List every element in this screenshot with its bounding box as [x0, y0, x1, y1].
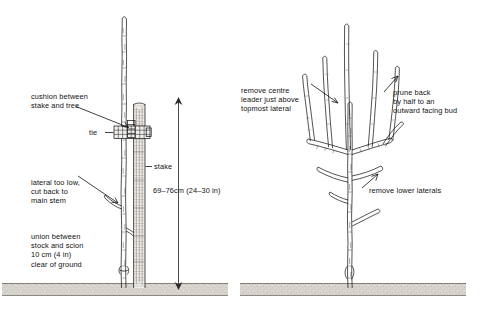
ground-band-left [2, 283, 228, 296]
lower-lateral-to-remove [352, 209, 380, 226]
panel-staking: cushion between stake and tree tie stake… [0, 0, 232, 313]
scaffold-branch-left-mid [317, 167, 348, 182]
scaffold-branch-left-low [329, 192, 348, 204]
label-cushion-between-stake-and-tree: cushion between stake and tree [31, 92, 135, 110]
label-prune-back-by-half: prune back by half to an outward facing … [393, 88, 487, 116]
label-remove-centre-leader: remove centre leader just above topmost … [241, 86, 327, 114]
tie-and-cushion [114, 121, 151, 139]
scaffold-branch-right-mid [352, 166, 383, 180]
scaffold-branch-left-upper [307, 139, 349, 155]
label-tie: tie [89, 128, 97, 137]
label-stake-height-dimension: 69–76cm (24–30 in) [153, 186, 221, 195]
label-union-between-stock-and-scion: union between stock and scion 10 cm (4 i… [31, 232, 131, 269]
label-remove-lower-laterals: remove lower laterals [369, 186, 441, 195]
ground-band-right [240, 283, 466, 296]
label-lateral-too-low: lateral too low, cut back to main stem [31, 178, 127, 206]
pruning-diagram-figure: cushion between stake and tree tie stake… [0, 0, 487, 313]
panel-pruning-artwork [238, 0, 487, 313]
panel-pruning: remove centre leader just above topmost … [238, 0, 487, 313]
main-stem-right [345, 102, 354, 288]
upright-shoot-4 [368, 50, 378, 147]
label-stake: stake [154, 162, 172, 171]
